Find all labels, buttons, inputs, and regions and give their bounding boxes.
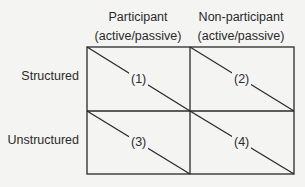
cell-2-label: (2) — [232, 72, 251, 86]
matrix-grid — [0, 0, 305, 187]
cell-1-label: (1) — [129, 72, 148, 86]
cell-4-label: (4) — [232, 135, 251, 149]
cell-3-label: (3) — [129, 135, 148, 149]
